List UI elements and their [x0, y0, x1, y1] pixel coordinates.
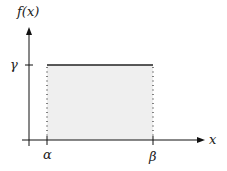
- shaded-area: [47, 65, 153, 140]
- uniform-density-diagram: f(x) x γ α β: [0, 0, 227, 171]
- beta-label: β: [148, 149, 157, 164]
- gamma-label: γ: [10, 57, 18, 72]
- y-axis-arrow-icon: [26, 27, 32, 35]
- alpha-label: α: [43, 147, 52, 162]
- x-axis-arrow-icon: [197, 137, 205, 143]
- x-axis-label: x: [209, 132, 217, 147]
- y-axis-label: f(x): [16, 4, 39, 19]
